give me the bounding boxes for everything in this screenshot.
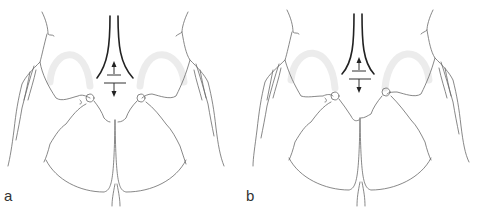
figure: a — [0, 0, 477, 209]
left-buttock — [289, 118, 360, 190]
right-crest-arc — [385, 54, 429, 88]
panel-a-illustration — [0, 0, 238, 209]
down-arrow-icon — [112, 91, 117, 97]
right-groove-curve — [118, 16, 133, 78]
left-buttock — [46, 120, 115, 192]
left-thumb — [331, 92, 339, 100]
left-groove-curve — [97, 16, 110, 78]
right-buttock — [360, 118, 431, 190]
direction-arrows — [104, 61, 126, 97]
left-crest-arc — [291, 53, 335, 88]
panel-label-b: b — [246, 188, 254, 203]
right-buttock — [115, 120, 186, 192]
panel-b: b — [239, 0, 477, 209]
right-thumb — [137, 94, 145, 102]
down-arrow-icon — [357, 87, 362, 93]
left-crest-arc — [50, 55, 90, 86]
left-hand-outline — [253, 60, 285, 166]
left-hand-outline — [8, 62, 40, 166]
right-crest-arc — [140, 55, 184, 86]
panel-label-a: a — [4, 188, 12, 203]
panel-a: a — [0, 0, 238, 209]
up-arrow-icon — [357, 57, 362, 63]
left-torso-outline — [287, 10, 299, 34]
left-groove-curve — [342, 14, 354, 74]
left-torso-outline — [42, 12, 54, 36]
right-groove-curve — [362, 14, 374, 74]
up-arrow-icon — [112, 61, 117, 67]
panel-b-illustration — [239, 0, 477, 209]
